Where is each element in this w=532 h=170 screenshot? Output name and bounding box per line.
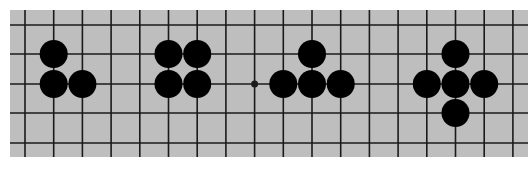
go-board-diagram bbox=[0, 0, 532, 170]
black-stone bbox=[298, 70, 326, 98]
black-stone bbox=[298, 40, 326, 68]
black-stone bbox=[40, 70, 68, 98]
black-stone bbox=[40, 40, 68, 68]
star-point bbox=[251, 81, 258, 88]
black-stone bbox=[183, 40, 211, 68]
black-stone bbox=[442, 40, 470, 68]
black-stone bbox=[68, 70, 96, 98]
black-stone bbox=[183, 70, 211, 98]
black-stone bbox=[269, 70, 297, 98]
black-stone bbox=[470, 70, 498, 98]
black-stone bbox=[327, 70, 355, 98]
black-stone bbox=[442, 70, 470, 98]
black-stone bbox=[442, 99, 470, 127]
black-stone bbox=[155, 70, 183, 98]
star-points bbox=[251, 81, 258, 88]
black-stone bbox=[155, 40, 183, 68]
black-stone bbox=[413, 70, 441, 98]
